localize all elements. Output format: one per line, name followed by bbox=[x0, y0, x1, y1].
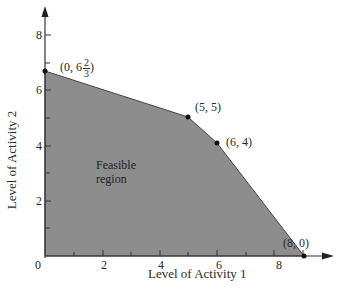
region-label-line2: region bbox=[96, 172, 136, 186]
region-label-line1: Feasible bbox=[96, 158, 136, 172]
y-tick-4: 4 bbox=[30, 139, 42, 154]
y-tick-6: 6 bbox=[30, 83, 42, 98]
point-5-5 bbox=[186, 115, 191, 120]
point-8-0 bbox=[302, 254, 307, 259]
annotation-point-6-4: (6, 4) bbox=[226, 135, 252, 150]
y-tick-2: 2 bbox=[30, 194, 42, 209]
fraction: 23 bbox=[83, 58, 90, 79]
y-axis-arrow-icon bbox=[42, 6, 49, 17]
annotation-point-5-5: (5, 5) bbox=[195, 100, 221, 115]
point-0-6.67 bbox=[43, 69, 48, 74]
y-axis-label: Level of Activity 2 bbox=[4, 111, 20, 210]
fraction-denominator: 3 bbox=[84, 69, 89, 79]
x-axis-arrow-icon bbox=[322, 253, 334, 260]
feasible-region bbox=[45, 71, 304, 256]
annotation-point-0-6.67: (0, 623) bbox=[60, 58, 94, 79]
y-tick-8: 8 bbox=[30, 28, 42, 43]
annotation-suffix: ) bbox=[90, 60, 94, 74]
origin-label: 0 bbox=[35, 258, 41, 273]
point-6-4 bbox=[215, 141, 220, 146]
feasible-region-label: Feasible region bbox=[96, 158, 136, 186]
annotation-prefix: (0, 6 bbox=[60, 60, 82, 74]
x-tick-2: 2 bbox=[101, 258, 107, 273]
annotation-point-8-0: (8, 0) bbox=[283, 236, 309, 251]
x-axis-label: Level of Activity 1 bbox=[148, 266, 247, 282]
x-tick-8: 8 bbox=[276, 258, 282, 273]
